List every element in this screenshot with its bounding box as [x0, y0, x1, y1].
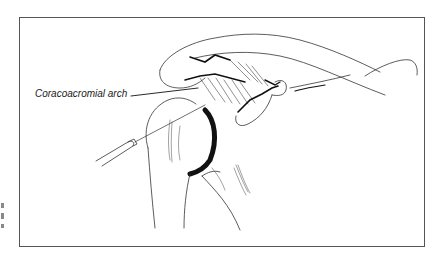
- coracoid-process: [236, 80, 325, 125]
- label-leader-line: [131, 88, 198, 96]
- coracoacromial-ligament: [185, 55, 280, 112]
- acromion-clavicle-outline: [160, 34, 418, 95]
- syringe: [96, 105, 205, 166]
- shoulder-anatomy-illustration: [0, 0, 444, 262]
- humeral-head: [146, 98, 240, 230]
- margin-marks: [1, 203, 5, 243]
- coracoacromial-arch-label: Coracoacromial arch: [35, 88, 127, 99]
